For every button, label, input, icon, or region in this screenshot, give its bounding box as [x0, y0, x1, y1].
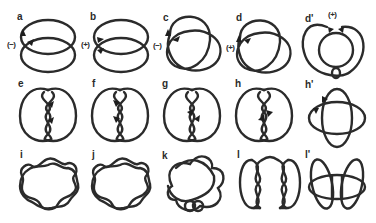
panel-d-diagram	[236, 20, 290, 72]
panel-g-diagram	[164, 89, 220, 141]
panel-label-e: e	[18, 79, 24, 89]
panel-label-i: i	[20, 150, 23, 160]
panel-l-diagram	[240, 157, 300, 208]
panel-h-prime-diagram	[309, 89, 365, 147]
panel-f-diagram	[92, 89, 148, 141]
crossing-sign-d: (+)	[226, 44, 235, 52]
crossing-sign-d-prime: (+)	[328, 11, 337, 19]
panel-d-prime-diagram	[303, 25, 364, 78]
panel-label-l-prime: l'	[305, 150, 310, 160]
crossing-sign-b: (+)	[81, 41, 90, 49]
panel-label-f: f	[92, 79, 95, 89]
knot-diagram-figure: a b c d d' e f g h h' i j k l l' (−) (+)…	[0, 0, 376, 223]
panel-label-d: d	[236, 13, 242, 23]
panel-l-prime-diagram	[307, 157, 367, 210]
panel-label-a: a	[17, 12, 23, 22]
panel-label-k: k	[162, 151, 168, 161]
panel-j-diagram	[92, 158, 150, 209]
panel-label-d-prime: d'	[305, 14, 314, 24]
panel-h-diagram	[236, 89, 292, 141]
panel-label-h: h	[235, 79, 241, 89]
panel-a-diagram	[20, 20, 75, 72]
panel-b-diagram	[94, 20, 148, 72]
panel-i-diagram	[20, 158, 78, 209]
panel-c-diagram	[165, 17, 220, 71]
knot-diagram-canvas	[0, 0, 376, 223]
crossing-sign-a: (−)	[7, 41, 16, 49]
panel-e-diagram	[20, 89, 76, 141]
panel-label-j: j	[92, 150, 95, 160]
panel-k-diagram	[168, 156, 224, 211]
panel-label-l: l	[237, 150, 240, 160]
panel-label-h-prime: h'	[305, 80, 314, 90]
panel-label-g: g	[162, 79, 168, 89]
crossing-sign-c: (−)	[153, 42, 162, 50]
panel-label-c: c	[163, 13, 169, 23]
panel-label-b: b	[90, 12, 96, 22]
